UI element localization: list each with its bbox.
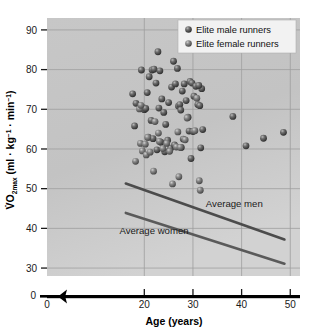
scatter-point-female [193, 95, 200, 102]
y-tick-label: 80 [26, 64, 38, 75]
scatter-point-male [229, 113, 236, 120]
scatter-point-female [147, 149, 154, 156]
scatter-point-male [153, 80, 160, 87]
y-tick-label: 90 [26, 25, 38, 36]
scatter-point-male [196, 102, 203, 109]
scatter-point-male [165, 99, 172, 106]
scatter-point-male [160, 109, 167, 116]
legend-marker-male [185, 26, 192, 33]
scatter-point-male [129, 90, 136, 97]
scatter-point-male [174, 65, 181, 72]
scatter-point-female [174, 129, 181, 136]
scatter-point-male [195, 82, 202, 89]
scatter-point-female [177, 144, 184, 151]
scatter-point-male [199, 126, 206, 133]
legend-label-male: Elite male runners [196, 25, 271, 35]
scatter-point-male [138, 67, 145, 74]
scatter-point-male [177, 107, 184, 114]
y-tick-label: 60 [26, 144, 38, 155]
scatter-point-female [175, 173, 182, 180]
annotation-label: Average men [206, 198, 263, 209]
scatter-point-female [169, 181, 176, 188]
x-tick-label: 40 [236, 299, 248, 310]
scatter-point-male [162, 121, 169, 128]
scatter-point-female [192, 127, 199, 134]
scatter-point-female [184, 115, 191, 122]
scatter-point-male [179, 88, 186, 95]
scatter-point-male [151, 66, 158, 73]
chart-legend: Elite male runners Elite female runners [178, 20, 296, 53]
scatter-point-male [146, 73, 153, 80]
scatter-point-male [170, 58, 177, 65]
vo2max-scatter-chart: 30405060708090 020304050 Average menAver… [0, 0, 320, 331]
scatter-point-male [197, 144, 204, 151]
scatter-point-female [182, 136, 189, 143]
x-tick-label: 20 [139, 299, 151, 310]
scatter-point-male [188, 155, 195, 162]
y-tick-label: 50 [26, 183, 38, 194]
scatter-point-female [132, 158, 139, 165]
x-tick-label: 0 [44, 299, 50, 310]
y-tick-label: 70 [26, 104, 38, 115]
scatter-point-female [166, 148, 173, 155]
legend-label-female: Elite female runners [196, 39, 279, 49]
scatter-point-male [280, 129, 287, 136]
scatter-point-male [243, 142, 250, 149]
annotation-label: Average women [119, 225, 188, 236]
scatter-point-female [152, 118, 159, 125]
scatter-point-male [131, 123, 138, 130]
scatter-point-male [154, 146, 161, 153]
legend-marker-female [185, 40, 192, 47]
x-axis-title: Age (years) [145, 315, 202, 327]
scatter-point-male [155, 48, 162, 55]
scatter-point-female [163, 140, 170, 147]
y-tick-label: 40 [26, 223, 38, 234]
scatter-point-male [183, 97, 190, 104]
y-tick-label: 30 [26, 263, 38, 274]
scatter-point-female [144, 134, 151, 141]
scatter-point-male [181, 80, 188, 87]
x-tick-label: 30 [187, 299, 199, 310]
scatter-point-male [144, 89, 151, 96]
scatter-point-female [142, 141, 149, 148]
y-tick-label-zero: 0 [30, 290, 36, 301]
scatter-point-male [172, 80, 179, 87]
scatter-point-male [156, 67, 163, 74]
scatter-point-female [196, 177, 203, 184]
scatter-point-male [260, 135, 267, 142]
scatter-point-female [150, 168, 157, 175]
scatter-point-female [138, 102, 145, 109]
scatter-point-female [197, 187, 204, 194]
x-tick-label: 50 [285, 299, 297, 310]
scatter-point-female [156, 138, 163, 145]
scatter-point-female [155, 130, 162, 137]
scatter-point-male [158, 96, 165, 103]
chart-root: 30405060708090 020304050 Average menAver… [0, 0, 320, 331]
